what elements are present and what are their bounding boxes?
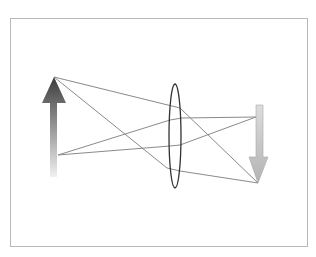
object-arrow [42, 77, 66, 177]
convex-lens [169, 84, 181, 188]
lens-ray-diagram [0, 0, 316, 257]
ray-bottom-ray-upper [58, 117, 256, 155]
ray-bottom-ray-lower [58, 117, 256, 155]
ray-top-ray-upper [54, 77, 258, 183]
object-arrow-up-icon [42, 77, 66, 177]
light-rays [54, 77, 258, 183]
ray-top-ray-lower [54, 77, 258, 183]
